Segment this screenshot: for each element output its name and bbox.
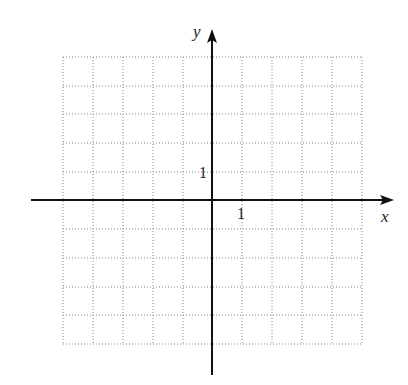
y-axis-label: y (191, 22, 201, 41)
y-axis (207, 29, 217, 375)
y-tick-label: 1 (199, 164, 207, 181)
x-axis-label: x (380, 207, 389, 226)
x-tick-label: 1 (237, 205, 245, 222)
coordinate-plane: y x 1 1 (0, 0, 408, 385)
